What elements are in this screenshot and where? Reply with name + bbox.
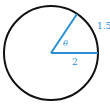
radius-label: 2	[72, 58, 78, 67]
angle-label: θ	[63, 40, 68, 48]
circle-diagram	[0, 0, 110, 108]
arc-length-label: 1.5	[97, 22, 110, 31]
